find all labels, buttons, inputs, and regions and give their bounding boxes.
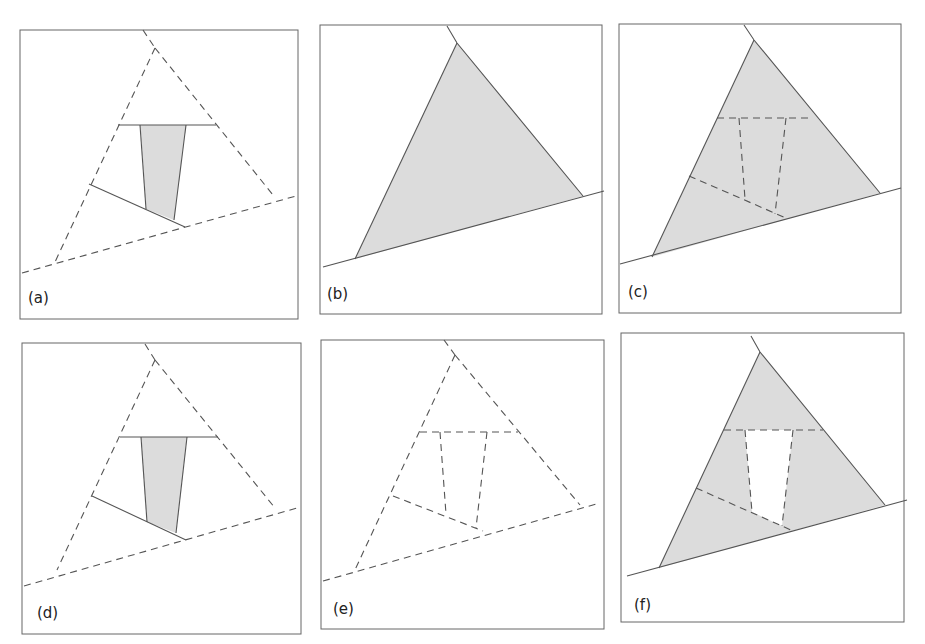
panel-e-baseline xyxy=(323,503,600,581)
panel-d-label: (d) xyxy=(37,604,58,622)
panel-a-left-edge xyxy=(55,48,155,262)
panel-e-label: (e) xyxy=(333,600,354,618)
panel-b-label: (b) xyxy=(327,285,348,303)
panel-b-shaded-triangle xyxy=(355,43,583,259)
panel-a-shaded-strip xyxy=(140,125,186,220)
panel-c xyxy=(619,24,901,313)
panel-e-frame xyxy=(321,340,604,629)
panel-f xyxy=(621,333,907,622)
panel-f-label: (f) xyxy=(634,596,651,614)
panel-a xyxy=(20,30,298,319)
panel-a-label: (a) xyxy=(28,289,49,307)
figure-canvas: .frame{fill:none;stroke:#666;stroke-widt… xyxy=(0,0,925,644)
panel-b xyxy=(320,25,604,314)
panel-c-label: (c) xyxy=(628,283,648,301)
panel-e xyxy=(321,340,604,629)
panel-a-apex-ray xyxy=(143,30,155,48)
panel-d-shaded-strip xyxy=(141,437,187,533)
panel-d xyxy=(22,343,301,634)
